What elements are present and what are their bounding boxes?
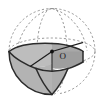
center-point-marker [50, 50, 54, 54]
sphere-diagram-canvas: O [0, 0, 104, 109]
sphere-diagram: O [0, 0, 104, 109]
center-label-o: O [60, 51, 67, 61]
